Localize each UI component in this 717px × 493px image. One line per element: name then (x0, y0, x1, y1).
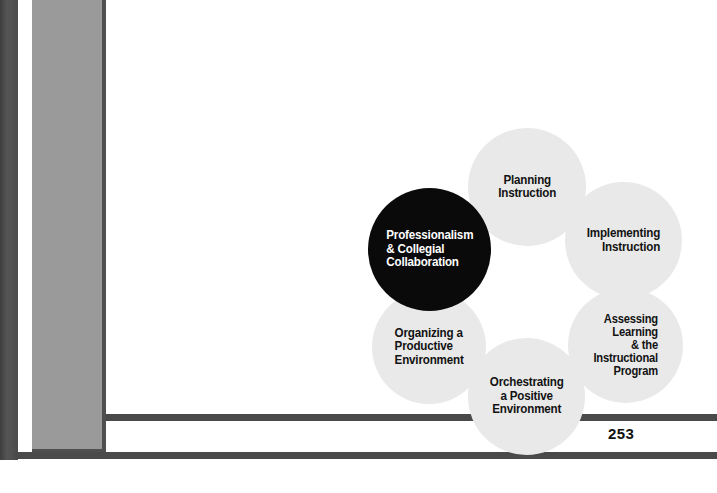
cycle-diagram: Planning Instruction Implementing Instru… (360, 120, 690, 465)
node-assessing[interactable]: Assessing Learning & the Instructional P… (568, 288, 683, 403)
page-gutter-gap (18, 0, 32, 452)
node-implementing-label: Implementing Instruction (580, 227, 666, 254)
node-implementing[interactable]: Implementing Instruction (565, 182, 682, 299)
node-orchestrating[interactable]: Orchestrating a Positive Environment (468, 338, 585, 455)
node-planning-label: Planning Instruction (491, 174, 562, 201)
node-professionalism[interactable]: Professionalism & Collegial Collaboratio… (368, 188, 491, 311)
scanned-book-page: Planning Instruction Implementing Instru… (0, 0, 717, 493)
book-binding-shadow (0, 0, 18, 460)
sidebar-gray-column (32, 0, 106, 453)
node-organizing-label: Organizing a Productive Environment (388, 327, 470, 368)
node-assessing-label: Assessing Learning & the Instructional P… (587, 313, 665, 378)
page-number: 253 (608, 425, 634, 442)
node-professionalism-label: Professionalism & Collegial Collaboratio… (379, 229, 479, 270)
node-orchestrating-label: Orchestrating a Positive Environment (483, 376, 570, 417)
